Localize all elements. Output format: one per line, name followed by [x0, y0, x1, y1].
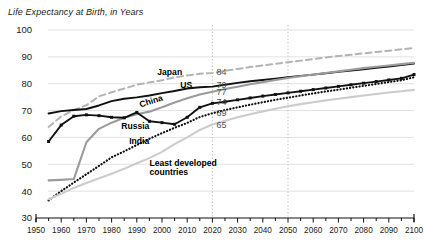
series-marker	[135, 111, 138, 114]
series-marker	[236, 98, 239, 101]
value-label-china: 77	[216, 87, 226, 97]
value-label-russia: 74	[216, 97, 226, 107]
x-axis-tick-label: 1960	[52, 226, 71, 235]
series-marker	[413, 73, 416, 76]
series-marker	[72, 115, 75, 118]
series-marker	[287, 91, 290, 94]
x-axis-tick-label: 2080	[354, 226, 373, 235]
series-marker	[60, 124, 63, 127]
series-label-russia: Russia	[121, 121, 149, 131]
series-label-us: US	[180, 80, 192, 90]
series-marker	[198, 106, 201, 109]
series-label-china: China	[138, 93, 164, 110]
x-axis-tick-label: 2070	[329, 226, 348, 235]
x-axis-tick-label: 2100	[405, 226, 424, 235]
series-marker	[98, 114, 101, 117]
x-axis-tick-label: 2060	[304, 226, 323, 235]
series-marker	[261, 95, 264, 98]
series-marker	[324, 87, 327, 90]
value-label-least-developed-countries: 65	[216, 120, 226, 130]
y-axis-tick-label: 40	[21, 186, 32, 197]
series-marker	[123, 116, 126, 119]
series-marker	[211, 102, 214, 105]
series-marker	[362, 82, 365, 85]
series-marker	[47, 140, 50, 143]
x-axis-tick-label: 2050	[279, 226, 298, 235]
x-axis-tick-label: 2090	[380, 226, 399, 235]
y-axis-tick-label: 50	[21, 159, 32, 170]
series-marker	[249, 96, 252, 99]
series-marker	[387, 78, 390, 81]
series-label-countries: countries	[149, 167, 188, 177]
series-label-india: India	[129, 136, 149, 146]
y-axis-tick-label: 80	[21, 78, 32, 89]
x-axis-tick-label: 2030	[228, 226, 247, 235]
series-line-least-developed-countries	[49, 90, 414, 199]
series-marker	[161, 121, 164, 124]
series-marker	[173, 123, 176, 126]
y-axis-tick-label: 30	[21, 212, 32, 223]
x-axis-tick-label: 2010	[178, 226, 197, 235]
x-axis-tick-label: 2000	[153, 226, 172, 235]
x-axis-tick-label: 1980	[102, 226, 121, 235]
chart-root: Life Expectancy at Birth, in Years 30405…	[0, 0, 424, 252]
value-label-india: 69	[216, 108, 226, 118]
x-axis-tick-label: 1950	[27, 226, 46, 235]
value-label-japan: 84	[216, 67, 226, 77]
x-axis-tick-label: 1990	[128, 226, 147, 235]
series-marker	[312, 88, 315, 91]
series-marker	[110, 116, 113, 119]
series-marker	[337, 85, 340, 88]
y-axis-tick-label: 90	[21, 51, 32, 62]
series-marker	[375, 80, 378, 83]
line-chart: 3040506070809010019501960197019801990200…	[0, 0, 424, 252]
y-axis-tick-label: 70	[21, 105, 32, 116]
series-marker	[85, 113, 88, 116]
x-axis-tick-label: 2020	[203, 226, 222, 235]
x-axis-tick-label: 2040	[254, 226, 273, 235]
y-axis-tick-label: 100	[16, 24, 32, 35]
x-axis-tick-label: 1970	[77, 226, 96, 235]
series-marker	[350, 83, 353, 86]
series-marker	[299, 90, 302, 93]
y-axis-tick-label: 60	[21, 132, 32, 143]
series-marker	[186, 116, 189, 119]
series-marker	[274, 93, 277, 96]
series-label-japan: Japan	[157, 67, 182, 77]
